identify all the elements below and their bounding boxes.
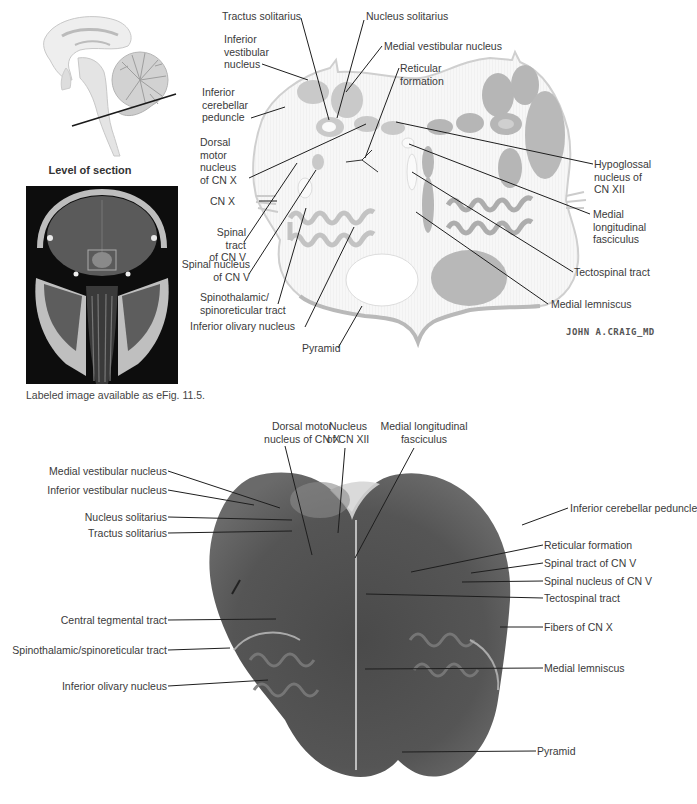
hist-label-spinal-tract-cn-v: Spinal tract of CN V xyxy=(544,557,636,570)
hist-label-spinal-nucleus-cn-v: Spinal nucleus of CN V xyxy=(544,575,652,588)
hist-label-nucleus-cn-xii: Nucleus of CN XII xyxy=(322,420,374,445)
hist-label-inferior-cerebellar-peduncle: Inferior cerebellar peduncle xyxy=(570,502,697,515)
hist-label-nucleus-solitarius: Nucleus solitarius xyxy=(0,511,167,524)
hist-label-medial-lemniscus: Medial lemniscus xyxy=(544,662,625,675)
hist-label-spinothalamic-spinoreticular-tract: Spinothalamic/spinoreticular tract xyxy=(0,644,167,657)
hist-label-fibers-cn-x: Fibers of CN X xyxy=(544,621,613,634)
hist-label-reticular-formation: Reticular formation xyxy=(544,539,632,552)
hist-label-inferior-olivary-nucleus: Inferior olivary nucleus xyxy=(0,680,167,693)
hist-label-medial-longitudinal-fasciculus: Medial longitudinal fasciculus xyxy=(374,420,474,445)
hist-label-tractus-solitarius: Tractus solitarius xyxy=(0,527,167,540)
hist-label-inferior-vestibular-nucleus: Inferior vestibular nucleus xyxy=(0,484,167,497)
hist-label-pyramid: Pyramid xyxy=(537,745,576,758)
hist-label-central-tegmental-tract: Central tegmental tract xyxy=(0,614,167,627)
hist-label-medial-vestibular-nucleus: Medial vestibular nucleus xyxy=(0,465,167,478)
hist-label-tectospinal-tract: Tectospinal tract xyxy=(544,592,620,605)
histology-tissue xyxy=(209,472,510,777)
